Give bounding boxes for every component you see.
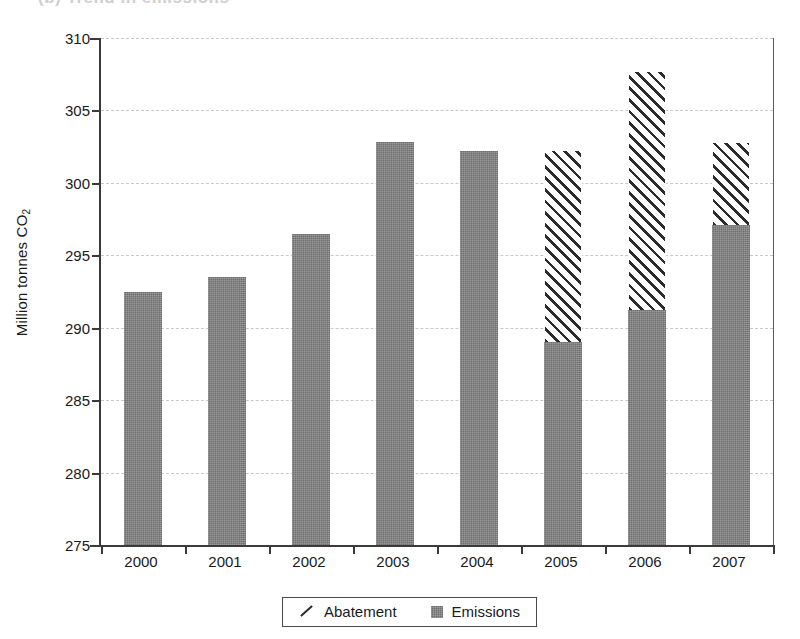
bar-group[interactable] <box>208 38 246 545</box>
bar-segment-emissions[interactable] <box>376 142 414 545</box>
gridline <box>101 38 773 39</box>
bar-segment-abatement[interactable] <box>712 142 750 225</box>
x-axis-tick-label: 2001 <box>190 553 260 570</box>
y-axis-tick-label: 275 <box>65 537 90 554</box>
gridline <box>101 183 773 184</box>
gridline <box>101 400 773 401</box>
y-axis-tick-labels: 275280285290295300305310 <box>44 38 90 545</box>
y-axis-tick-label: 280 <box>65 464 90 481</box>
bar-group[interactable] <box>628 38 666 545</box>
x-axis-tick <box>773 545 775 554</box>
legend-label: Emissions <box>452 603 520 620</box>
x-axis-tick-label: 2006 <box>610 553 680 570</box>
y-axis-tick-label: 310 <box>65 30 90 47</box>
y-axis-tick-label: 300 <box>65 174 90 191</box>
bar-chart-figure: Million tonnes CO2 275280285290295300305… <box>0 0 800 639</box>
y-axis-tick-label: 290 <box>65 319 90 336</box>
legend-entry[interactable]: Emissions <box>431 603 520 620</box>
bar-group[interactable] <box>712 38 750 545</box>
hatch-line-icon <box>299 605 315 619</box>
gridline <box>101 473 773 474</box>
gridline <box>101 110 773 111</box>
y-axis-tick <box>92 110 101 112</box>
y-axis-tick <box>92 183 101 185</box>
x-axis-tick-labels: 20002001200220032004200520062007 <box>99 553 773 579</box>
bar-segment-emissions[interactable] <box>460 151 498 545</box>
x-axis-tick-label: 2005 <box>526 553 596 570</box>
bar-segment-abatement[interactable] <box>628 71 666 310</box>
x-axis-tick-label: 2000 <box>106 553 176 570</box>
x-axis-tick-label: 2002 <box>274 553 344 570</box>
bar-group[interactable] <box>124 38 162 545</box>
y-axis-tick-label: 295 <box>65 247 90 264</box>
bar-group[interactable] <box>376 38 414 545</box>
y-axis-tick-label: 285 <box>65 392 90 409</box>
legend-entry[interactable]: Abatement <box>299 603 397 620</box>
bar-segment-emissions[interactable] <box>292 234 330 545</box>
bar-segment-emissions[interactable] <box>124 292 162 546</box>
y-axis-tick <box>92 328 101 330</box>
bar-segment-emissions[interactable] <box>628 310 666 545</box>
y-axis-tick <box>90 38 101 40</box>
bar-segment-emissions[interactable] <box>544 342 582 545</box>
plot-area <box>99 38 773 547</box>
legend-label: Abatement <box>324 603 397 620</box>
y-axis-title-text: Million tonnes CO <box>14 214 31 336</box>
y-axis-tick <box>92 473 101 475</box>
bar-group[interactable] <box>544 38 582 545</box>
y-axis-title: Million tonnes CO2 <box>0 0 44 545</box>
gridline <box>101 328 773 329</box>
y-axis-tick <box>92 255 101 257</box>
bar-segment-emissions[interactable] <box>208 277 246 545</box>
y-axis-tick-label: 305 <box>65 102 90 119</box>
bar-segment-abatement[interactable] <box>544 150 582 343</box>
y-axis-title-subscript: 2 <box>22 209 33 215</box>
x-axis-tick-label: 2004 <box>442 553 512 570</box>
x-axis-tick-label: 2007 <box>694 553 764 570</box>
x-axis-tick-label: 2003 <box>358 553 428 570</box>
gridline <box>101 255 773 256</box>
y-axis-tick <box>90 545 101 547</box>
gray-square-icon <box>431 606 443 618</box>
bar-group[interactable] <box>292 38 330 545</box>
y-axis-tick <box>92 400 101 402</box>
bar-group[interactable] <box>460 38 498 545</box>
bar-segment-emissions[interactable] <box>712 225 750 545</box>
chart-legend: AbatementEmissions <box>282 597 537 627</box>
